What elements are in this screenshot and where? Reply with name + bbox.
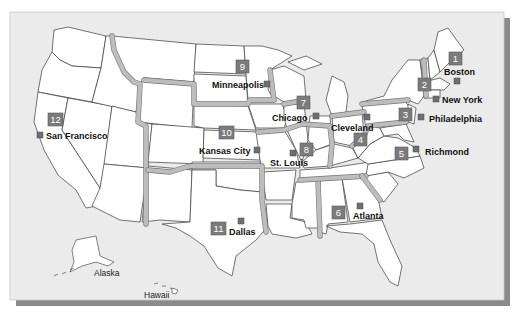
state-arkansas: [262, 170, 296, 200]
district-number: 3: [403, 109, 408, 120]
city-marker: [313, 113, 319, 119]
alaska-label: Alaska: [94, 268, 120, 278]
city-marker: [254, 147, 260, 153]
city-marker: [364, 114, 370, 120]
district-number: 4: [358, 134, 363, 145]
district-number: 11: [214, 223, 224, 234]
hawaii-label: Hawaii: [144, 290, 170, 300]
city-marker: [264, 81, 270, 87]
fed-district-map: Alaska Hawaii 1 Boston 2 New York 3 Phil…: [0, 0, 518, 317]
city-label: Boston: [444, 67, 475, 77]
city-label: San Francisco: [46, 131, 108, 141]
district-number: 8: [304, 144, 309, 155]
city-marker: [418, 114, 424, 120]
state-colorado: [148, 124, 204, 164]
city-marker: [454, 78, 460, 84]
city-label: Richmond: [425, 147, 469, 157]
city-label: Philadelphia: [429, 114, 483, 124]
city-marker: [357, 203, 363, 209]
city-marker: [37, 132, 43, 138]
district-number: 12: [50, 114, 61, 125]
city-label: Chicago: [272, 113, 308, 123]
district-number: 7: [301, 97, 306, 108]
city-label: Kansas City: [199, 146, 251, 156]
district-number: 6: [336, 207, 341, 218]
district-number: 9: [240, 61, 245, 72]
city-label: Minneapolis: [212, 80, 264, 90]
district-number: 10: [221, 127, 232, 138]
city-marker: [238, 218, 244, 224]
city-label: Cleveland: [331, 123, 374, 133]
district-number: 5: [399, 148, 404, 159]
city-label: New York: [442, 95, 483, 105]
city-marker: [290, 150, 296, 156]
city-label: St. Louis: [270, 158, 308, 168]
district-number: 2: [422, 79, 427, 90]
district-number: 1: [453, 53, 458, 64]
state-south-dakota: [194, 74, 248, 106]
city-label: Atlanta: [353, 211, 384, 221]
city-label: Dallas: [229, 227, 256, 237]
city-marker: [413, 146, 419, 152]
city-marker: [433, 96, 439, 102]
